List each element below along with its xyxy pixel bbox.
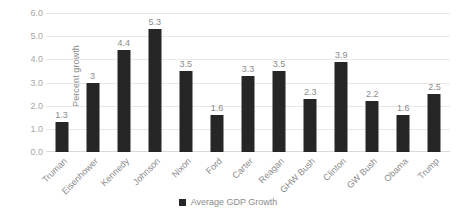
x-axis-category-label: Clinton [321, 156, 348, 183]
bar-value-label: 4.4 [117, 38, 130, 48]
bar-value-label: 3 [90, 71, 95, 81]
x-axis-category-label: Truman [40, 156, 69, 185]
bar-value-label: 3.3 [242, 64, 255, 74]
bar [86, 83, 99, 153]
x-axis-category-label: Trump [416, 156, 441, 181]
bar-value-label: 1.3 [55, 110, 68, 120]
x-label-slot: Nixon [170, 154, 201, 196]
plot-area: 1.334.45.33.51.63.33.52.33.92.21.62.5 [46, 13, 450, 152]
bar-slot: 3.3 [232, 13, 263, 152]
y-axis-tick-label: 5.0 [30, 31, 43, 41]
bar [335, 62, 348, 152]
y-axis-tick-label: 2.0 [30, 101, 43, 111]
bar [428, 94, 441, 152]
bar-value-label: 2.5 [428, 82, 441, 92]
bar-slot: 1.3 [46, 13, 77, 152]
y-axis-tick-label: 1.0 [30, 124, 43, 134]
bar-value-label: 5.3 [148, 17, 161, 27]
bar [241, 76, 254, 152]
bar [304, 99, 317, 152]
bar-slot: 2.3 [295, 13, 326, 152]
bar [397, 115, 410, 152]
bar-value-label: 3.5 [273, 59, 286, 69]
y-axis-tick-label: 4.0 [30, 54, 43, 64]
legend-item-label: Average GDP Growth [191, 197, 278, 207]
bar-slot: 2.5 [419, 13, 450, 152]
y-axis-tick-label: 6.0 [30, 8, 43, 18]
x-label-slot: Obama [388, 154, 419, 196]
x-label-slot: Trump [419, 154, 450, 196]
x-axis-category-label: Ford [204, 156, 224, 176]
y-axis-tick-label: 3.0 [30, 78, 43, 88]
bar [117, 50, 130, 152]
x-label-slot: Ford [201, 154, 232, 196]
bar-slot: 1.6 [201, 13, 232, 152]
bar-slot: 5.3 [139, 13, 170, 152]
y-axis-tick-labels: 0.01.02.03.04.05.06.0 [17, 0, 43, 160]
bar-slot: 2.2 [357, 13, 388, 152]
bar-value-label: 1.6 [397, 103, 410, 113]
bar [179, 71, 192, 152]
bar [273, 71, 286, 152]
bar-value-label: 2.3 [304, 87, 317, 97]
bar-series-average-gdp-growth: 1.334.45.33.51.63.33.52.33.92.21.62.5 [46, 13, 450, 152]
x-axis-category-label: Carter [230, 156, 255, 181]
bar-slot: 1.6 [388, 13, 419, 152]
bar-slot: 3 [77, 13, 108, 152]
bar-slot: 4.4 [108, 13, 139, 152]
bar [210, 115, 223, 152]
bar [148, 29, 161, 152]
bar-slot: 3.9 [326, 13, 357, 152]
legend-square-marker-icon [179, 199, 186, 206]
bar-chart: Percent growth 0.01.02.03.04.05.06.0 1.3… [0, 0, 456, 213]
bar-value-label: 1.6 [211, 103, 224, 113]
bar [366, 101, 379, 152]
x-axis-category-label: Nixon [170, 156, 193, 179]
y-axis-tick-label: 0.0 [30, 147, 43, 157]
x-axis-category-labels: TrumanEisenhowerKennedyJohnsonNixonFordC… [46, 154, 450, 196]
bar-slot: 3.5 [170, 13, 201, 152]
bar-value-label: 2.2 [366, 89, 379, 99]
bar-value-label: 3.5 [180, 59, 193, 69]
chart-legend: Average GDP Growth [0, 197, 456, 207]
bar-slot: 3.5 [264, 13, 295, 152]
x-label-slot: Johnson [139, 154, 170, 196]
bar [55, 122, 68, 152]
bar-value-label: 3.9 [335, 50, 348, 60]
